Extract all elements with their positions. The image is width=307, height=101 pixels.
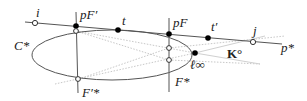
point-pf	[166, 31, 172, 37]
label-l-infinity: ℓ∞	[190, 57, 205, 72]
point-i	[32, 20, 37, 25]
label-t: t	[122, 13, 126, 28]
label-f-prime-star: F′*	[81, 85, 100, 100]
label-f-star: F*	[174, 74, 190, 89]
point-conic-fstar-lower	[167, 58, 172, 63]
line-p-star	[25, 22, 282, 44]
point-conic-fstar-upper	[167, 46, 172, 51]
label-i: i	[36, 5, 40, 20]
point-t-prime	[205, 35, 211, 41]
point-j	[250, 39, 255, 44]
label-k-circ: K°	[227, 46, 242, 61]
point-t	[115, 27, 121, 33]
point-l-infinity	[192, 50, 198, 56]
label-c-star: C*	[14, 38, 30, 53]
label-pf: pF	[172, 15, 189, 30]
label-j: j	[251, 23, 257, 38]
point-pf-prime	[73, 23, 79, 29]
point-f-prime-star-lower	[76, 77, 81, 82]
label-pf-prime: pF′	[79, 7, 97, 22]
label-t-prime: t′	[211, 19, 218, 34]
projective-diagram: i pF′ t pF t′ j p* C* F′* F* ℓ∞ K°	[0, 0, 307, 101]
label-p-star: p*	[280, 40, 295, 55]
point-tangent-upper-left	[74, 29, 79, 34]
